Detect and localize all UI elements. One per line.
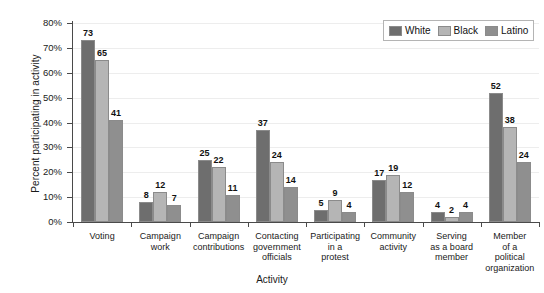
- x-category-label: Contactinggovernmentofficials: [248, 231, 306, 263]
- x-category-label: Servingas a boardmember: [423, 231, 481, 263]
- bar-value-label: 19: [388, 164, 398, 173]
- y-tick-label: 80%: [22, 18, 62, 28]
- bar-latino: 11: [226, 195, 240, 222]
- bar-group: 372414: [248, 23, 306, 222]
- x-tick-mark: [73, 222, 74, 227]
- x-tick-mark: [248, 222, 249, 227]
- bar-group: 252211: [190, 23, 248, 222]
- bar-value-label: 24: [272, 151, 282, 160]
- bar-value-label: 22: [214, 156, 224, 165]
- x-axis-title: Activity: [0, 274, 544, 285]
- bar-black: 22: [212, 167, 226, 222]
- x-tick-mark: [423, 222, 424, 227]
- bar-white: 73: [81, 40, 95, 222]
- x-tick-mark: [190, 222, 191, 227]
- bar-value-label: 14: [286, 176, 296, 185]
- y-tick-label: 0%: [22, 217, 62, 227]
- bar-value-label: 8: [144, 191, 149, 200]
- bar-value-label: 25: [200, 149, 210, 158]
- y-tick-label: 20%: [22, 167, 62, 177]
- bar-latino: 4: [459, 212, 473, 222]
- y-tick-label: 30%: [22, 142, 62, 152]
- bar-latino: 24: [517, 162, 531, 222]
- x-tick-mark: [481, 222, 482, 227]
- y-tick-label: 50%: [22, 93, 62, 103]
- x-category-label: Communityactivity: [364, 231, 422, 252]
- bar-white: 4: [431, 212, 445, 222]
- x-tick-mark: [539, 222, 540, 227]
- x-category-label: Campaignwork: [131, 231, 189, 252]
- bar-group: 171912: [364, 23, 422, 222]
- bar-white: 17: [372, 180, 386, 222]
- bar-value-label: 52: [491, 82, 501, 91]
- x-category-label: Campaigncontributions: [190, 231, 248, 252]
- bar-black: 38: [503, 127, 517, 222]
- bar-latino: 12: [400, 192, 414, 222]
- bar-white: 37: [256, 130, 270, 222]
- bar-group: 8127: [131, 23, 189, 222]
- bar-latino: 4: [342, 212, 356, 222]
- bar-value-label: 24: [519, 151, 529, 160]
- bar-value-label: 17: [374, 169, 384, 178]
- bar-white: 52: [489, 93, 503, 222]
- bar-value-label: 4: [347, 201, 352, 210]
- y-tick-label: 40%: [22, 118, 62, 128]
- y-tick-label: 70%: [22, 43, 62, 53]
- bar-group: 523824: [481, 23, 539, 222]
- bar-black: 2: [445, 217, 459, 222]
- bar-value-label: 38: [505, 116, 515, 125]
- bar-black: 19: [386, 175, 400, 222]
- x-tick-mark: [306, 222, 307, 227]
- x-category-label: Memberof apoliticalorganization: [481, 231, 539, 273]
- bar-value-label: 4: [463, 201, 468, 210]
- bar-value-label: 5: [319, 199, 324, 208]
- bar-group: 424: [423, 23, 481, 222]
- bar-group: 594: [306, 23, 364, 222]
- bar-value-label: 2: [449, 206, 454, 215]
- bar-value-label: 4: [435, 201, 440, 210]
- bar-value-label: 11: [228, 184, 238, 193]
- bar-value-label: 12: [155, 181, 165, 190]
- x-tick-mark: [364, 222, 365, 227]
- y-tick-label: 60%: [22, 68, 62, 78]
- y-tick-label: 10%: [22, 192, 62, 202]
- bar-group: 736541: [73, 23, 131, 222]
- bar-chart: Percent participating in activity 0%10%2…: [0, 0, 544, 293]
- bar-white: 25: [198, 160, 212, 222]
- x-tick-mark: [131, 222, 132, 227]
- bar-latino: 7: [167, 205, 181, 222]
- bar-black: 65: [95, 60, 109, 222]
- bar-black: 24: [270, 162, 284, 222]
- bar-white: 8: [139, 202, 153, 222]
- bar-latino: 14: [284, 187, 298, 222]
- bar-black: 12: [153, 192, 167, 222]
- x-category-label: Participatingin aprotest: [306, 231, 364, 263]
- bar-value-label: 37: [258, 119, 268, 128]
- bar-white: 5: [314, 210, 328, 222]
- bar-value-label: 73: [83, 29, 93, 38]
- bar-value-label: 9: [333, 189, 338, 198]
- bar-value-label: 12: [402, 181, 412, 190]
- bar-value-label: 7: [172, 194, 177, 203]
- bar-value-label: 41: [111, 109, 121, 118]
- x-category-label: Voting: [73, 231, 131, 242]
- bar-black: 9: [328, 200, 342, 222]
- bar-latino: 41: [109, 120, 123, 222]
- bar-value-label: 65: [97, 49, 107, 58]
